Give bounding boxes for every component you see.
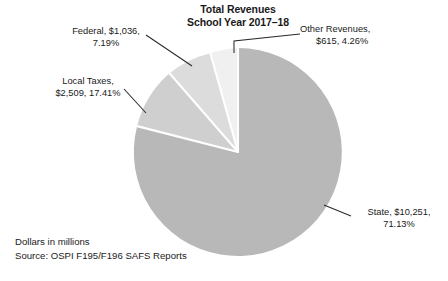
slice-label-federal: Federal, $1,036, 7.19% <box>42 26 170 49</box>
slice-label-state: State, $10,251, 71.13% <box>352 207 446 230</box>
slice-label-other-revenues: Other Revenues, $615, 4.26% <box>300 24 440 47</box>
slice-label-state-line-1: State, $10,251, <box>352 207 446 219</box>
slice-label-state-line-2: 71.13% <box>352 219 446 231</box>
chart-canvas: Total Revenues School Year 2017–18 <box>0 0 448 281</box>
footnote-units: Dollars in millions <box>15 235 187 249</box>
leader-line-state <box>324 205 351 216</box>
footnote-source: Source: OSPI F195/F196 SAFS Reports <box>15 249 187 263</box>
slice-label-local-taxes: Local Taxes, $2,509, 17.41% <box>22 76 154 99</box>
slice-label-other-revenues-line-1: Other Revenues, <box>300 24 440 36</box>
slice-label-other-revenues-line-2: $615, 4.26% <box>300 36 440 48</box>
slice-label-federal-line-1: Federal, $1,036, <box>42 26 170 38</box>
slice-label-local-taxes-line-2: $2,509, 17.41% <box>22 88 154 100</box>
slice-label-local-taxes-line-1: Local Taxes, <box>22 76 154 88</box>
chart-footnote: Dollars in millions Source: OSPI F195/F1… <box>15 235 187 263</box>
slice-label-federal-line-2: 7.19% <box>42 38 170 50</box>
